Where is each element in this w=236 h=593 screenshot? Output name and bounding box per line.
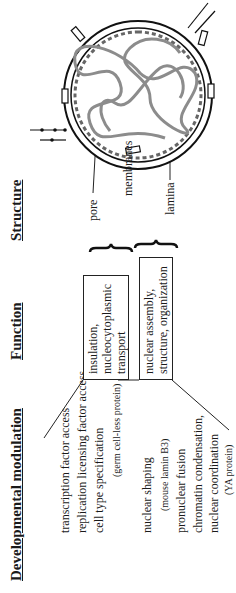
function-line: structure, organization: [156, 263, 170, 374]
connector-line-2: [172, 380, 229, 430]
brace-1: [90, 244, 132, 252]
structure-label-pore: pore: [86, 200, 100, 221]
nuclear-envelope-diagram: Developmental modulation Function Struct…: [0, 0, 236, 593]
structure-label-lamina: lamina: [163, 182, 177, 215]
brace-2: [135, 240, 177, 248]
function-line: nuclear assembly,: [142, 263, 156, 374]
function-box-insulation: insulation, nucleocytoplasmic transport: [83, 275, 129, 380]
function-line: insulation,: [86, 281, 100, 374]
function-line: transport: [114, 281, 128, 374]
function-line: nucleocytoplasmic: [100, 281, 114, 374]
structure-label-membranes: membranes: [121, 141, 135, 196]
nucleus-illustration: [62, 21, 214, 169]
connector-line-1: [44, 380, 83, 438]
function-box-nuclear-assembly: nuclear assembly, structure, organizatio…: [139, 257, 173, 380]
